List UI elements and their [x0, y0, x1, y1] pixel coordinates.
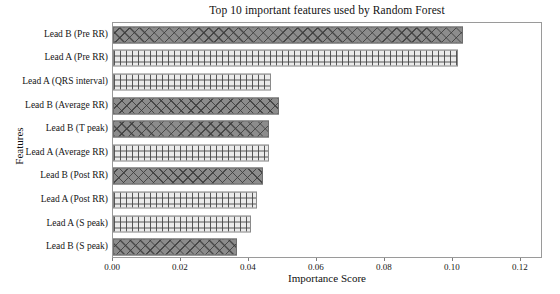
bar-series [113, 23, 541, 257]
y-tick-label: Lead A (QRS interval) [0, 76, 108, 86]
bar-lead-b-average-rr[interactable] [113, 97, 279, 114]
x-tick-label: 0.08 [376, 262, 392, 272]
bar-row [113, 70, 543, 94]
y-tick-label: Lead B (Average RR) [0, 100, 108, 110]
y-tick-label: Lead A (Post RR) [0, 194, 108, 204]
y-tick-label: Lead B (Post RR) [0, 170, 108, 180]
x-tick-mark [384, 258, 385, 261]
bar-row [113, 165, 543, 189]
bar-row [113, 47, 543, 71]
bar-row [113, 212, 543, 236]
x-tick-label: 0.12 [512, 262, 528, 272]
x-tick-mark [520, 258, 521, 261]
bar-lead-b-post-rr[interactable] [113, 168, 263, 185]
bar-lead-a-average-rr[interactable] [113, 144, 269, 161]
plot-area [112, 22, 542, 258]
bar-row [113, 94, 543, 118]
x-tick-label: 0.00 [104, 262, 120, 272]
bar-lead-b-t-peak[interactable] [113, 121, 269, 138]
bar-row [113, 23, 543, 47]
bar-row [113, 117, 543, 141]
x-axis-label: Importance Score [112, 272, 542, 284]
x-tick-mark [180, 258, 181, 261]
x-tick-label: 0.06 [308, 262, 324, 272]
bar-lead-b-s-peak[interactable] [113, 239, 237, 256]
figure: Top 10 important features used by Random… [0, 0, 560, 294]
bar-row [113, 141, 543, 165]
x-tick-label: 0.02 [172, 262, 188, 272]
x-tick-label: 0.04 [240, 262, 256, 272]
bar-lead-a-pre-rr[interactable] [113, 50, 458, 67]
x-tick-label: 0.10 [444, 262, 460, 272]
bar-lead-b-pre-rr[interactable] [113, 26, 463, 43]
y-tick-label: Lead B (S peak) [0, 241, 108, 251]
bar-lead-a-s-peak[interactable] [113, 215, 251, 232]
y-tick-label: Lead B (Pre RR) [0, 29, 108, 39]
y-tick-label: Lead A (Average RR) [0, 147, 108, 157]
y-tick-label: Lead B (T peak) [0, 123, 108, 133]
y-tick-label: Lead A (Pre RR) [0, 52, 108, 62]
x-tick-mark [248, 258, 249, 261]
bar-lead-a-post-rr[interactable] [113, 191, 257, 208]
x-tick-mark [112, 258, 113, 261]
y-tick-label: Lead A (S peak) [0, 218, 108, 228]
bar-row [113, 188, 543, 212]
bar-lead-a-qrs-interval[interactable] [113, 73, 271, 90]
bar-row [113, 235, 543, 259]
x-tick-mark [316, 258, 317, 261]
chart-title: Top 10 important features used by Random… [112, 4, 542, 16]
x-tick-mark [452, 258, 453, 261]
